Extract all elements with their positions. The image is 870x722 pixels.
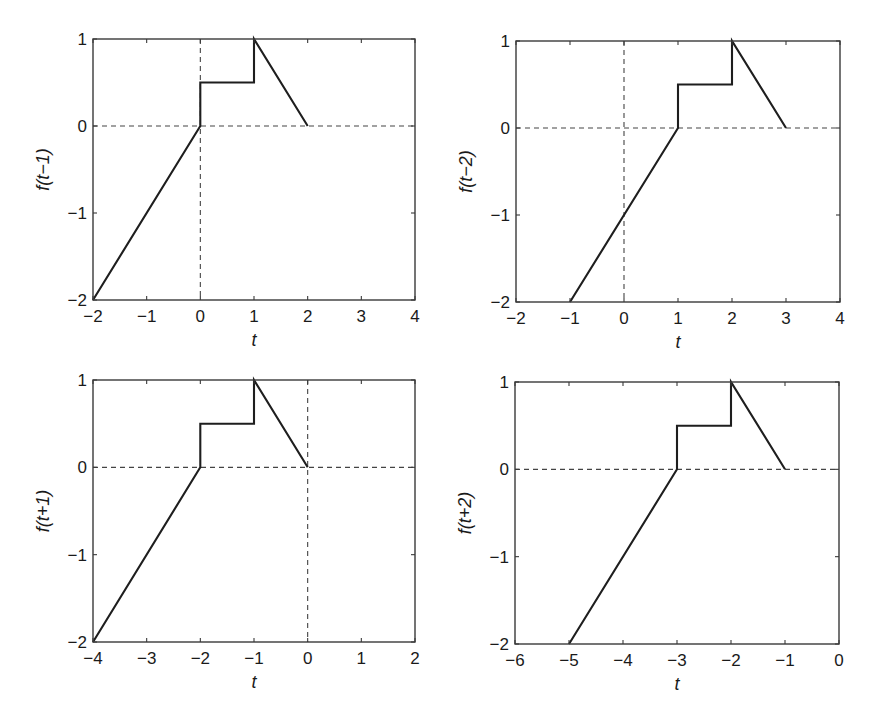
x-tick-label: 2 [303,307,312,326]
axes-frame [516,41,840,302]
x-tick-label: −1 [775,651,794,670]
x-tick-label: −3 [667,651,686,670]
x-axis-label: t [674,674,680,694]
x-axis-label: t [251,672,257,692]
y-axis-label: f(t−1) [33,148,53,191]
x-tick-label: −1 [137,307,156,326]
y-tick-label: 1 [78,371,87,390]
y-axis-label: f(t+1) [33,490,53,533]
subplot-f-t-minus-1: −2−101234−2−101tf(t−1) [33,30,420,350]
y-tick-label: 0 [78,117,87,136]
x-tick-label: 0 [619,309,628,328]
x-tick-label: 3 [357,307,366,326]
x-tick-label: −1 [560,309,579,328]
subplot-f-t-plus-1: −4−3−2−1012−2−101tf(t+1) [33,371,420,692]
y-tick-label: 1 [500,373,509,392]
x-tick-label: 4 [835,309,844,328]
x-tick-label: 4 [410,307,419,326]
figure: −2−101234−2−101tf(t−1) −2−101234−2−101tf… [0,0,870,722]
y-tick-label: 0 [501,119,510,138]
y-tick-label: −2 [490,635,509,654]
y-tick-label: −2 [491,293,510,312]
y-axis-label: f(t−2) [456,150,476,193]
subplot-f-t-plus-2: −6−5−4−3−2−10−2−101tf(t+2) [455,373,844,694]
signal-line [93,380,308,642]
y-tick-label: −1 [490,548,509,567]
y-tick-label: −1 [491,206,510,225]
x-tick-label: 0 [834,651,843,670]
x-tick-label: −3 [137,649,156,668]
y-tick-label: −2 [68,633,87,652]
x-tick-label: −2 [721,651,740,670]
y-tick-label: −1 [68,546,87,565]
x-tick-label: 3 [781,309,790,328]
x-axis-label: t [675,332,681,352]
x-tick-label: 0 [303,649,312,668]
y-tick-label: −2 [68,291,87,310]
subplot-f-t-minus-2: −2−101234−2−101tf(t−2) [456,32,845,352]
x-tick-label: −2 [191,649,210,668]
x-tick-label: 0 [196,307,205,326]
signal-line [569,382,785,644]
x-tick-label: 2 [410,649,419,668]
y-tick-label: 0 [78,458,87,477]
y-tick-label: 1 [78,30,87,49]
y-tick-label: −1 [68,204,87,223]
signal-line [570,41,786,302]
x-tick-label: 1 [249,307,258,326]
x-tick-label: 1 [673,309,682,328]
x-tick-label: −1 [244,649,263,668]
axes-frame [515,382,839,644]
x-tick-label: −5 [559,651,578,670]
y-tick-label: 1 [501,32,510,51]
y-axis-label: f(t+2) [455,492,475,535]
x-tick-label: 1 [357,649,366,668]
x-axis-label: t [251,330,257,350]
x-tick-label: −4 [613,651,632,670]
y-tick-label: 0 [500,460,509,479]
x-tick-label: 2 [727,309,736,328]
